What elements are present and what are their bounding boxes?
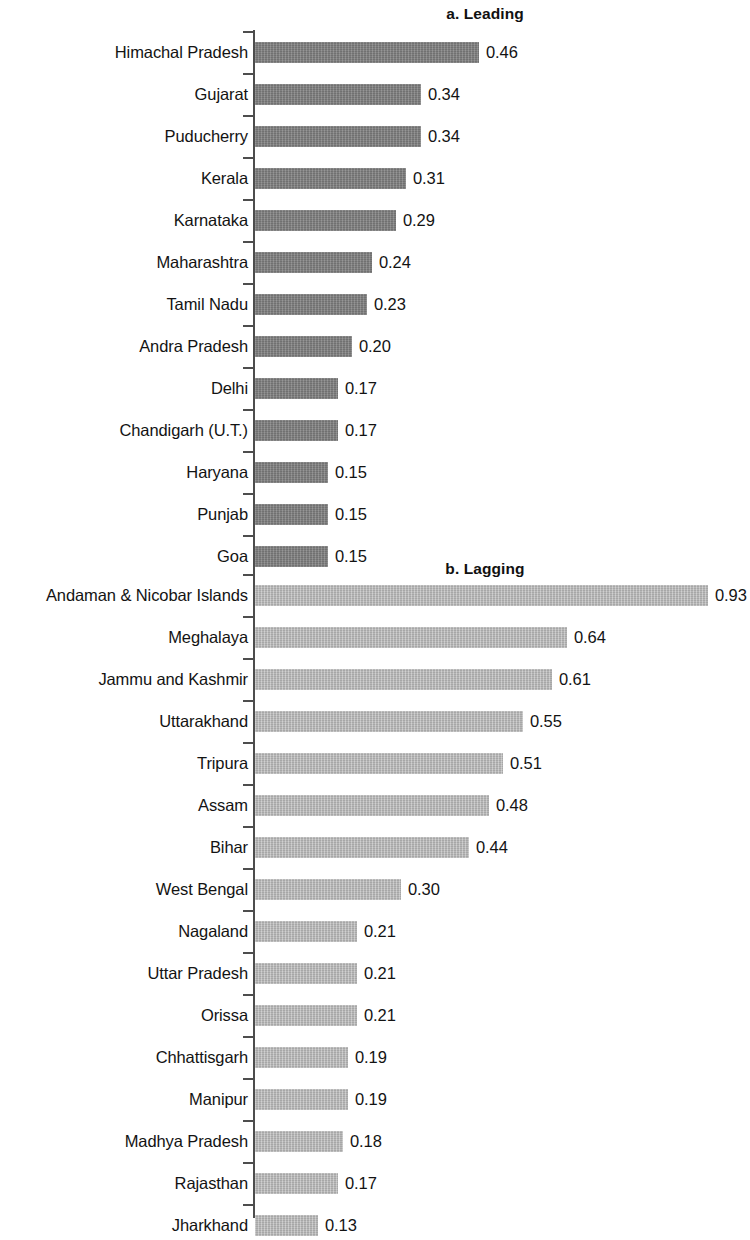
- bar-fill: [255, 210, 396, 231]
- bar: [255, 378, 338, 399]
- bar-row: Madhya Pradesh0.18: [0, 1120, 750, 1162]
- bar-value-label: 0.23: [374, 294, 406, 315]
- bar-value-label: 0.20: [359, 336, 391, 357]
- category-label: Puducherry: [0, 115, 248, 157]
- bar-fill: [255, 168, 406, 189]
- bar-value-label: 0.93: [715, 585, 747, 606]
- bar-fill: [255, 711, 523, 732]
- bar-fill: [255, 252, 372, 273]
- category-label: Andra Pradesh: [0, 325, 248, 367]
- bar-value-label: 0.46: [486, 42, 518, 63]
- bar-fill: [255, 585, 708, 606]
- bar-row: Maharashtra0.24: [0, 241, 750, 283]
- bar-value-label: 0.18: [350, 1131, 382, 1152]
- bar-fill: [255, 795, 489, 816]
- category-label: Andaman & Nicobar Islands: [0, 574, 248, 616]
- category-label: Meghalaya: [0, 616, 248, 658]
- bar-row: Goa0.15: [0, 535, 750, 577]
- bar-row: Uttarakhand0.55: [0, 700, 750, 742]
- category-label: Rajasthan: [0, 1162, 248, 1204]
- bar-row: Haryana0.15: [0, 451, 750, 493]
- bar-value-label: 0.34: [428, 84, 460, 105]
- bar-fill: [255, 753, 503, 774]
- category-label: Tamil Nadu: [0, 283, 248, 325]
- bar-row: Chandigarh (U.T.)0.17: [0, 409, 750, 451]
- bar-value-label: 0.17: [345, 378, 377, 399]
- bar-row: Rajasthan0.17: [0, 1162, 750, 1204]
- bar: [255, 1089, 348, 1110]
- bar-fill: [255, 669, 552, 690]
- category-label: Delhi: [0, 367, 248, 409]
- bar-fill: [255, 1089, 348, 1110]
- bar-fill: [255, 546, 328, 567]
- category-label: Madhya Pradesh: [0, 1120, 248, 1162]
- category-label: Tripura: [0, 742, 248, 784]
- bar-row: Punjab0.15: [0, 493, 750, 535]
- bar-row: Andaman & Nicobar Islands0.93: [0, 574, 750, 616]
- bar: [255, 795, 489, 816]
- category-label: Chandigarh (U.T.): [0, 409, 248, 451]
- category-label: Karnataka: [0, 199, 248, 241]
- bar: [255, 504, 328, 525]
- bar-row: Nagaland0.21: [0, 910, 750, 952]
- bar: [255, 1215, 318, 1236]
- bar-value-label: 0.34: [428, 126, 460, 147]
- bar-fill: [255, 42, 479, 63]
- bar: [255, 420, 338, 441]
- bar-value-label: 0.15: [335, 462, 367, 483]
- bar: [255, 126, 421, 147]
- category-label: Chhattisgarh: [0, 1036, 248, 1078]
- bar-value-label: 0.15: [335, 504, 367, 525]
- bar: [255, 546, 328, 567]
- bar-row: Gujarat0.34: [0, 73, 750, 115]
- bar-row: Tripura0.51: [0, 742, 750, 784]
- bar: [255, 753, 503, 774]
- bar: [255, 585, 708, 606]
- bar-row: Chhattisgarh0.19: [0, 1036, 750, 1078]
- bar-value-label: 0.21: [364, 921, 396, 942]
- bar: [255, 84, 421, 105]
- bar-row: Manipur0.19: [0, 1078, 750, 1120]
- bar-row: Assam0.48: [0, 784, 750, 826]
- bar-row: West Bengal0.30: [0, 868, 750, 910]
- bar-value-label: 0.19: [355, 1047, 387, 1068]
- category-label: Gujarat: [0, 73, 248, 115]
- bar-row: Kerala0.31: [0, 157, 750, 199]
- bar-value-label: 0.17: [345, 420, 377, 441]
- bar-fill: [255, 504, 328, 525]
- bar-fill: [255, 294, 367, 315]
- category-label: Uttarakhand: [0, 700, 248, 742]
- bar-value-label: 0.44: [476, 837, 508, 858]
- category-label: Uttar Pradesh: [0, 952, 248, 994]
- bar: [255, 462, 328, 483]
- bar-value-label: 0.31: [413, 168, 445, 189]
- bar-fill: [255, 1173, 338, 1194]
- bar-value-label: 0.13: [325, 1215, 357, 1236]
- bar-fill: [255, 336, 352, 357]
- bar-value-label: 0.29: [403, 210, 435, 231]
- category-label: Orissa: [0, 994, 248, 1036]
- bar-value-label: 0.55: [530, 711, 562, 732]
- category-label: Haryana: [0, 451, 248, 493]
- bar-value-label: 0.15: [335, 546, 367, 567]
- bar: [255, 1173, 338, 1194]
- bar-fill: [255, 627, 567, 648]
- bar-value-label: 0.19: [355, 1089, 387, 1110]
- bar: [255, 1005, 357, 1026]
- bar-row: Delhi0.17: [0, 367, 750, 409]
- bar-fill: [255, 921, 357, 942]
- bar-row: Uttar Pradesh0.21: [0, 952, 750, 994]
- bar-row: Tamil Nadu0.23: [0, 283, 750, 325]
- bar-fill: [255, 837, 469, 858]
- bar-value-label: 0.61: [559, 669, 591, 690]
- bar-row: Karnataka0.29: [0, 199, 750, 241]
- bar: [255, 1047, 348, 1068]
- category-label: Manipur: [0, 1078, 248, 1120]
- bar: [255, 879, 401, 900]
- bar-row: Bihar0.44: [0, 826, 750, 868]
- bar: [255, 168, 406, 189]
- bar-row: Orissa0.21: [0, 994, 750, 1036]
- bar: [255, 837, 469, 858]
- category-label: Goa: [0, 535, 248, 577]
